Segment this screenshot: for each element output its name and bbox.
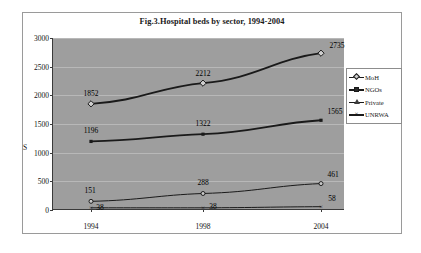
series-line-unrwa [91,207,321,208]
legend-marker-triangle-icon [349,98,364,107]
plot-area: 050010001500200025003000 199419982004 ××… [52,38,344,210]
data-point-label: 461 [327,169,338,178]
data-point-label: 58 [328,193,336,202]
data-point-label: 1852 [84,88,99,97]
x-axis-tick-label: 2004 [314,222,329,231]
chart-legend[interactable]: MoHNGOsPrivate×UNRWA [346,68,402,124]
y-axis-unit-label: S [23,143,27,152]
data-point-marker [319,119,322,122]
data-point-label: 38 [96,202,104,211]
data-point-marker [88,101,94,107]
legend-item-private[interactable]: Private [349,96,399,109]
chart-title: Fig.3.Hospital beds by sector, 1994-2004 [22,17,402,26]
y-axis-tick-label: 3000 [34,34,49,43]
data-point-label: 151 [84,186,95,195]
data-point-label: 2735 [330,41,345,50]
data-point-marker [319,182,323,186]
data-point-marker [89,199,93,203]
data-point-marker: × [319,203,323,211]
data-point-label: 1322 [196,119,211,128]
legend-item-moh[interactable]: MoH [349,71,399,84]
y-axis-tick-label: 500 [38,177,49,186]
data-point-label: 1565 [328,107,343,116]
data-point-marker: × [201,204,205,212]
y-axis-tick [50,210,53,211]
x-axis-tick-label: 1994 [84,222,99,231]
legend-marker-diamond-icon [349,73,364,82]
legend-marker-square-icon [349,85,364,94]
data-point-marker [318,50,324,56]
data-point-label: 2212 [196,69,211,78]
data-point-label: 38 [209,201,217,210]
x-axis-tick-label: 1998 [196,222,211,231]
legend-marker-cross-icon: × [349,110,364,119]
data-point-marker: × [89,204,93,212]
legend-label: Private [365,99,384,106]
data-point-marker [201,133,204,136]
legend-item-ngos[interactable]: NGOs [349,84,399,97]
data-point-label: 1196 [84,126,99,135]
series-line-moh [91,53,321,104]
legend-label: UNRWA [365,111,389,118]
data-point-marker [201,191,205,195]
data-point-marker [89,140,92,143]
figure-container: Fig.3.Hospital beds by sector, 1994-2004… [0,0,421,253]
data-point-label: 288 [197,178,208,187]
legend-label: NGOs [365,86,382,93]
legend-item-unrwa[interactable]: ×UNRWA [349,109,399,122]
y-axis-tick-label: 2500 [34,62,49,71]
y-axis-tick-label: 0 [45,206,49,215]
data-point-marker [200,80,206,86]
legend-label: MoH [365,74,379,81]
y-axis-tick-label: 1000 [34,148,49,157]
y-axis-tick-label: 2000 [34,91,49,100]
y-axis-tick-label: 1500 [34,120,49,129]
